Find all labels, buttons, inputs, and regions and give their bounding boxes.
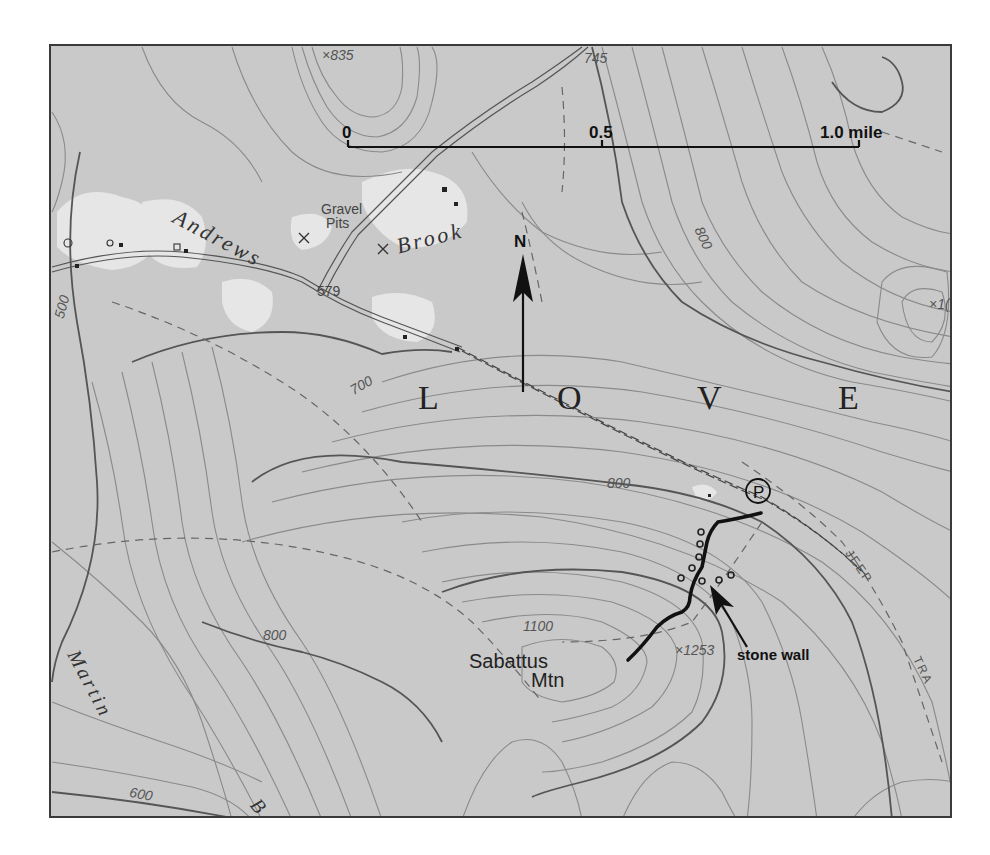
- mtn-label: Mtn: [531, 670, 564, 690]
- scale-tick-half: 0.5: [589, 123, 613, 143]
- town-letter-l: L: [418, 379, 439, 417]
- north-arrow: [513, 254, 533, 392]
- scale-tick-mile: 1.0 mile: [820, 123, 882, 143]
- gravel-label: Gravel: [321, 202, 362, 216]
- town-letter-v: V: [697, 379, 722, 417]
- contour-label-1100: 1100: [523, 618, 553, 634]
- road: [52, 47, 588, 352]
- spot-elevation-835: ×835: [322, 47, 354, 63]
- spot-elevation-745: 745: [584, 50, 607, 66]
- contours: [52, 47, 952, 818]
- contour-label-800-trail: 800: [607, 475, 630, 491]
- stone-wall-label: stone wall: [737, 646, 810, 663]
- north-label: N: [514, 232, 526, 252]
- sabattus-label: Sabattus: [469, 651, 548, 671]
- contour-lines-layer: [51, 46, 952, 818]
- spot-elevation-edge: ×1(: [929, 296, 950, 312]
- contour-label-800-sw: 800: [263, 627, 286, 643]
- pits-label: Pits: [326, 216, 349, 230]
- stone-wall-dots: [678, 529, 734, 584]
- spot-elevation-579: 579: [317, 284, 340, 298]
- cleared-areas: [57, 169, 717, 501]
- parking-label: P: [753, 483, 764, 503]
- spot-elevation-1253: ×1253: [675, 642, 714, 658]
- town-letter-o: O: [557, 379, 582, 417]
- town-letter-e: E: [838, 379, 859, 417]
- scale-tick-0: 0: [342, 123, 351, 143]
- topographic-map: ×835 745 0 0.5 1.0 mile Andrews Brook Gr…: [49, 44, 952, 818]
